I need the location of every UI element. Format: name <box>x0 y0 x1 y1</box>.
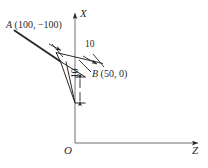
point-label-b-name: B <box>92 68 98 79</box>
point-label-a-coords: (100, −100) <box>15 19 62 30</box>
dim-top-arrow-right <box>83 56 97 64</box>
coordinate-diagram: A (100, −100) B (50, 0) X Z O 10 10 <box>0 0 208 168</box>
dim-top-ext-right <box>93 54 104 67</box>
point-label-a: A (100, −100) <box>6 20 62 30</box>
leader-b <box>79 60 91 72</box>
dimension-label-top: 10 <box>85 40 95 50</box>
axis-label-x: X <box>80 8 87 19</box>
axis-label-z: Z <box>192 145 198 156</box>
point-label-b: B (50, 0) <box>92 69 127 79</box>
dimension-label-side: 10 <box>71 69 81 79</box>
dim-top-arrow-left <box>49 44 61 51</box>
point-label-a-name: A <box>6 19 12 30</box>
leader-b-line <box>79 60 91 72</box>
point-label-b-coords: (50, 0) <box>101 68 128 79</box>
origin-label: O <box>64 145 72 156</box>
